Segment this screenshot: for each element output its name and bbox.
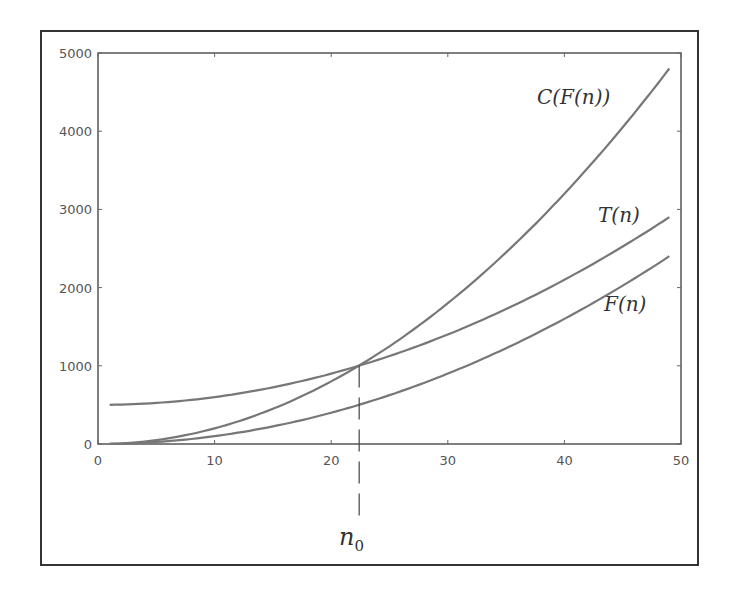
axis-ticks: 01020304050010002000300040005000 [59,46,689,468]
x-tick-label: 10 [206,453,223,468]
y-tick-label: 3000 [59,202,92,217]
plot-area [98,53,681,444]
y-tick-label: 0 [84,437,92,452]
x-tick-label: 50 [673,453,690,468]
x-tick-label: 40 [556,453,573,468]
label-n0: n0 [339,523,364,555]
curve-fn [110,256,670,444]
y-tick-label: 1000 [59,359,92,374]
label-fn: F(n) [603,292,646,316]
line-chart: 01020304050010002000300040005000 C(F(n))… [0,0,736,597]
x-tick-label: 0 [94,453,102,468]
y-tick-label: 5000 [59,46,92,61]
curve-tn [110,217,670,405]
label-tn: T(n) [598,203,640,227]
curves [110,69,670,444]
y-tick-label: 2000 [59,281,92,296]
label-cfn: C(F(n)) [537,85,610,109]
x-tick-label: 30 [440,453,457,468]
y-tick-label: 4000 [59,124,92,139]
curve-cfn [110,69,670,444]
x-tick-label: 20 [323,453,340,468]
